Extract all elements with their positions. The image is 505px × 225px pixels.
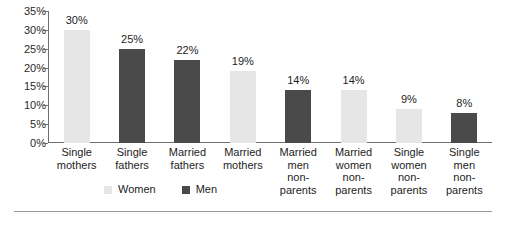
bar-value-label: 14%	[271, 75, 326, 86]
category-label-line: Married	[326, 146, 381, 159]
bar-slot: 9%	[381, 11, 436, 143]
bar-women[interactable]	[230, 71, 256, 143]
y-axis-tick-labels: 35%30%25%20%15%10%5%0%	[8, 11, 46, 143]
x-axis-category-label: Marriedwomennon-parents	[326, 146, 381, 196]
bar-value-label: 30%	[49, 15, 104, 26]
category-label-line: Single	[381, 146, 436, 159]
bar-value-label: 14%	[326, 75, 381, 86]
bar-slot: 8%	[437, 11, 492, 143]
plot-area: 35%30%25%20%15%10%5%0% 30%25%22%19%14%14…	[0, 0, 505, 150]
bar-slot: 30%	[49, 11, 104, 143]
legend-swatch-icon	[104, 186, 112, 194]
category-label-line: non-	[437, 171, 492, 184]
legend-swatch-icon	[182, 186, 190, 194]
y-axis-tick-mark	[43, 11, 48, 12]
x-axis-category-label: Singlemennon-parents	[437, 146, 492, 196]
bar-value-label: 25%	[104, 34, 159, 45]
category-label-line: parents	[326, 184, 381, 197]
legend-item-women[interactable]: Women	[104, 184, 156, 195]
chart-figure: 35%30%25%20%15%10%5%0% 30%25%22%19%14%14…	[0, 0, 505, 225]
y-axis-tick-mark	[43, 68, 48, 69]
bar-value-label: 8%	[437, 98, 492, 109]
x-axis-category-label: Singlewomennon-parents	[381, 146, 436, 196]
bar-slot: 22%	[160, 11, 215, 143]
bar-men[interactable]	[174, 60, 200, 143]
bar-slot: 19%	[215, 11, 270, 143]
category-label-line: men	[437, 159, 492, 172]
category-label-line: Single	[49, 146, 104, 159]
y-axis-tick-mark	[43, 143, 48, 144]
category-label-line: Married	[215, 146, 270, 159]
category-label-line: parents	[271, 184, 326, 197]
bar-value-label: 9%	[381, 94, 436, 105]
category-label-line: Single	[104, 146, 159, 159]
category-label-line: Married	[160, 146, 215, 159]
bar-value-label: 22%	[160, 45, 215, 56]
y-axis-tick-label: 25%	[8, 43, 46, 54]
y-axis-tick-label: 30%	[8, 24, 46, 35]
y-axis-tick-mark	[43, 124, 48, 125]
bar-series-group: 30%25%22%19%14%14%9%8%	[49, 11, 492, 143]
y-axis-tick-label: 20%	[8, 62, 46, 73]
category-label-line: mothers	[215, 159, 270, 172]
chart-legend: WomenMen	[104, 184, 243, 195]
category-label-line: Single	[437, 146, 492, 159]
y-axis-tick-mark	[43, 30, 48, 31]
y-axis-tick-mark	[43, 49, 48, 50]
category-label-line: women	[381, 159, 436, 172]
bar-men[interactable]	[451, 113, 477, 143]
category-label-line: parents	[437, 184, 492, 197]
bar-slot: 25%	[104, 11, 159, 143]
legend-item-men[interactable]: Men	[182, 184, 217, 195]
y-axis-tick-mark	[43, 86, 48, 87]
bar-men[interactable]	[285, 90, 311, 143]
y-axis-tick-label: 10%	[8, 100, 46, 111]
y-axis-tick-label: 15%	[8, 81, 46, 92]
y-axis-tick-mark	[43, 105, 48, 106]
bar-women[interactable]	[341, 90, 367, 143]
category-label-line: non-	[326, 171, 381, 184]
bar-women[interactable]	[396, 109, 422, 143]
category-label-line: women	[326, 159, 381, 172]
legend-label: Men	[196, 184, 217, 195]
bar-slot: 14%	[326, 11, 381, 143]
category-label-line: non-	[381, 171, 436, 184]
bar-men[interactable]	[119, 49, 145, 143]
category-label-line: mothers	[49, 159, 104, 172]
y-axis-tick-label: 35%	[8, 6, 46, 17]
y-axis-tick-label: 5%	[8, 119, 46, 130]
category-label-line: fathers	[104, 159, 159, 172]
bar-value-label: 19%	[215, 56, 270, 67]
bar-slot: 14%	[271, 11, 326, 143]
bar-women[interactable]	[64, 30, 90, 143]
category-label-line: Married	[271, 146, 326, 159]
category-label-line: fathers	[160, 159, 215, 172]
bottom-divider-rule	[14, 211, 492, 212]
x-axis-category-label: Singlemothers	[49, 146, 104, 196]
category-label-line: men	[271, 159, 326, 172]
category-label-line: parents	[381, 184, 436, 197]
legend-label: Women	[118, 184, 156, 195]
category-label-line: non-	[271, 171, 326, 184]
y-axis-tick-label: 0%	[8, 138, 46, 149]
x-axis-category-label: Marriedmennon-parents	[271, 146, 326, 196]
